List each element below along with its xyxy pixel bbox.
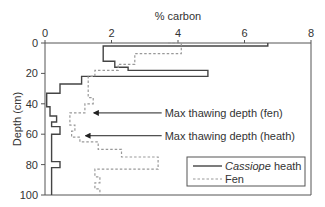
legend-label-heath: Cassiope heath xyxy=(225,160,301,172)
y-tick-label: 100 xyxy=(20,189,38,201)
x-tick-label: 2 xyxy=(108,27,114,39)
legend: Cassiope heath Fen xyxy=(187,157,305,186)
annotations: Max thawing depth (fen)Max thawing depth… xyxy=(86,107,295,142)
x-tick-label: 4 xyxy=(175,27,181,39)
y-tick-label: 40 xyxy=(26,98,38,110)
carbon-depth-chart: % carbon 02468 020406080100 Depth (cm) M… xyxy=(0,0,325,207)
series-fen xyxy=(70,43,181,195)
y-tick-label: 80 xyxy=(26,159,38,171)
y-tick-label: 60 xyxy=(26,128,38,140)
x-tick-label: 8 xyxy=(308,27,314,39)
annotation-label: Max thawing depth (fen) xyxy=(165,107,283,119)
x-axis-title: % carbon xyxy=(155,10,201,22)
y-axis-title: Depth (cm) xyxy=(11,92,23,146)
annotation-label: Max thawing depth (heath) xyxy=(165,130,295,142)
y-tick-label: 0 xyxy=(32,37,38,49)
y-axis-ticks: 020406080100 xyxy=(20,37,45,201)
y-tick-label: 20 xyxy=(26,67,38,79)
legend-label-fen: Fen xyxy=(225,173,244,185)
x-tick-label: 6 xyxy=(241,27,247,39)
x-tick-label: 0 xyxy=(42,27,48,39)
x-axis-ticks: 02468 xyxy=(42,27,314,43)
